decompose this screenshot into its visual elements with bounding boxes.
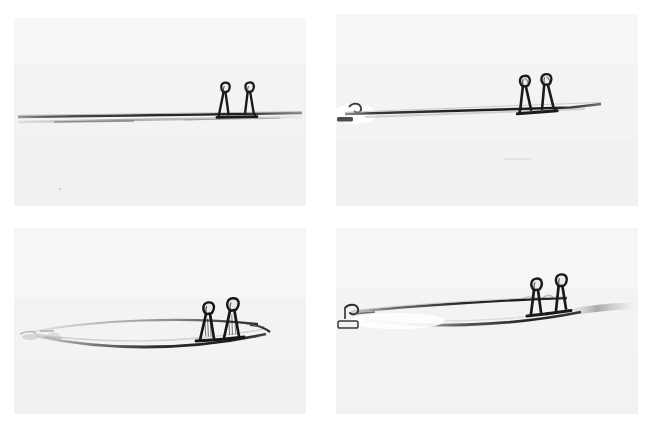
photo-panel-bottom-left[interactable]: [14, 228, 306, 414]
page-margin-top: [0, 0, 655, 14]
photo-panel-bottom-right[interactable]: [335, 226, 638, 414]
panel-3-artwork: [14, 228, 306, 414]
panel-gutter-horizontal: [0, 206, 655, 228]
page-margin-left: [0, 0, 14, 432]
photo-panel-top-right[interactable]: [335, 14, 638, 206]
photo-panel-top-left[interactable]: [14, 18, 306, 206]
page-margin-bottom: [0, 414, 655, 432]
page-margin-right: [638, 0, 655, 432]
panel-2-artwork: [335, 14, 638, 206]
figure-four-panel-grid: [0, 0, 655, 432]
panel-4-artwork: [335, 226, 638, 414]
panel-1-artwork: [14, 18, 306, 206]
